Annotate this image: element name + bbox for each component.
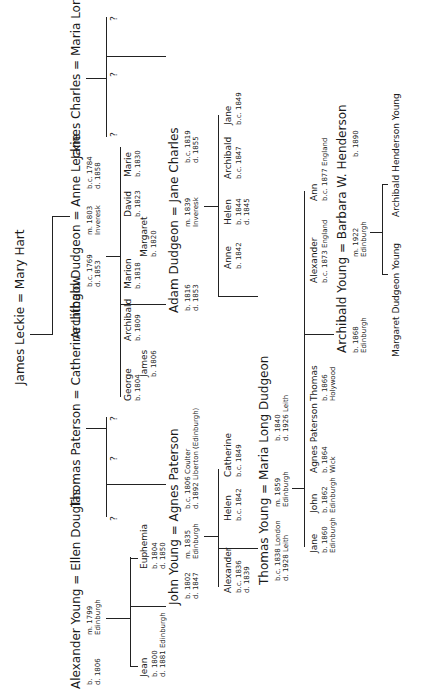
person-dates: b. 1864 Wick [321,446,337,473]
person-name: Maria Long [69,0,83,56]
person-name: Helen [224,199,233,225]
tree-line [52,216,70,217]
person-name: Catherine [224,433,233,477]
person-name: Archibald [224,137,233,179]
tree-line [218,296,258,297]
person-name: Jane [310,534,319,553]
tree-line [30,334,52,335]
person-dates: b. 1823 [134,190,142,217]
tree-line [106,256,120,257]
marriage-details: m. 1859 Edinburgh [274,471,290,507]
tree-line [120,304,166,305]
person-name: Jane Charles [167,127,181,202]
person-dates: b.c. 1836 d. 1839 [235,560,251,593]
person-dates: b. 1806 [150,350,158,377]
tree-line [218,548,258,549]
person-name: John [310,493,319,513]
person-dates: b. 1818 [134,262,142,289]
person-name: Archibald Henderson Young [392,93,401,217]
person-dates: b. 1830 [134,150,142,177]
tree-line [382,185,383,275]
tree-line [204,206,218,207]
person-dates: b. 1842 [235,242,243,269]
person-dates: b.c. 1769 d. 1853 [86,254,102,287]
couple-archibald-young-barbara-henderson: Archibald Young = Barbara W. Henderson [336,104,348,353]
unknown-child: ? [110,516,119,521]
person-name: Archibald Young [335,257,349,353]
marriage-details: m. 1799 Edinburgh [86,599,102,635]
person-name: Maria Long Dudgeon [257,356,271,480]
tree-line [106,484,166,485]
person-name: Thomas [310,365,319,401]
marriage-symbol: = [167,525,181,535]
tree-line [106,618,130,619]
couple-dudgeon-leckie: Archibald Dudgeon = Anne Leckie [70,134,82,339]
tree-line [304,334,334,335]
person-name: David [124,191,133,217]
tree-line [218,469,219,587]
marriage-symbol: = [69,60,83,70]
tree-line [106,17,107,137]
marriage-details: m. 1803 Inveresk [86,205,102,235]
person-dates: b. 1804 [134,374,142,401]
person-name: Adam Dudgeon [167,220,181,313]
marriage-details: m. 1835 Edinburgh [184,523,200,559]
person-james-leckie-mary-hart: James Leckie = Mary Hart [14,230,26,385]
tree-line [382,274,388,275]
person-dates: b.c. 1819 d. 1855 [184,130,200,163]
unknown-child: ? [110,132,119,137]
tree-line [370,232,382,233]
tree-line [130,558,138,559]
person-dates: b.c. 1806 Coulter d. 1892 Liberton (Edin… [184,408,200,509]
couple-charles-long: James Charles = Maria Long [70,0,82,159]
person-name: James Charles [69,74,83,159]
person-dates: b. 1844 d. 1845 [235,198,251,225]
person-name: Marie [124,152,133,177]
tree-line [130,666,138,667]
unknown-child: ? [110,456,119,461]
marriage-symbol: = [69,389,83,399]
person-name: Helen [224,495,233,521]
person-dates: b.c. 1784 d. 1858 [86,156,102,189]
person-dates: b.c. 1849 [235,444,243,477]
person-name: Alexander [310,237,319,283]
person-dates: b. 1820 [150,230,158,257]
person-dates: b.c. 1877 England [321,138,329,201]
couple-thomas-young-maria-dudgeon: Thomas Young = Maria Long Dudgeon [258,356,270,585]
unknown-child: ? [110,416,119,421]
marriage-symbol: = [167,206,181,216]
person-dates: b. 1840 d. 1926 Leith [274,395,290,441]
person-name: Thomas Young [257,498,271,585]
tree-line [292,488,304,489]
person-name: Mary Hart [13,230,27,290]
person-dates: b. 1860 Edinburgh [321,517,337,553]
person-dates: b. 1862 Edinburgh [321,477,337,513]
person-name: Margaret [140,216,149,257]
tree-line [86,428,106,429]
couple-young-douglas: Alexander Young = Ellen Douglas [70,489,82,689]
person-name: Alexander Young [69,589,83,689]
person-name: George [124,368,133,401]
marriage-symbol: = [257,484,271,494]
person-dates: b. 1809 [134,314,142,341]
person-dates: b. 1802 d. 1847 [184,572,200,599]
person-name: Barbara W. Henderson [335,104,349,239]
unknown-child: ? [110,16,119,21]
person-dates: b.c. 1873 England [321,220,329,283]
person-dates: b. 1816 d. 1853 [184,284,200,311]
person-dates: b.c. 1842 [235,488,243,521]
marriage-details: m. 1839 Inveresk [184,197,200,227]
marriage-symbol: = [335,243,349,253]
marriage-symbol: = [13,293,27,303]
person-dates: b. d. 1806 [86,658,102,685]
tree-line [120,147,121,397]
person-name: Thomas Paterson [69,403,83,507]
family-tree-sheet: James Leckie = Mary Hart Alexander Young… [0,0,424,697]
tree-line [130,557,131,667]
person-dates: b.c. 1847 [235,146,243,179]
person-name: Agnes Paterson [310,403,319,473]
tree-line [52,216,53,335]
unknown-child: ? [110,72,119,77]
person-name: Jean [140,658,149,677]
couple-adam-dudgeon-jane-charles: Adam Dudgeon = Jane Charles [168,127,180,313]
